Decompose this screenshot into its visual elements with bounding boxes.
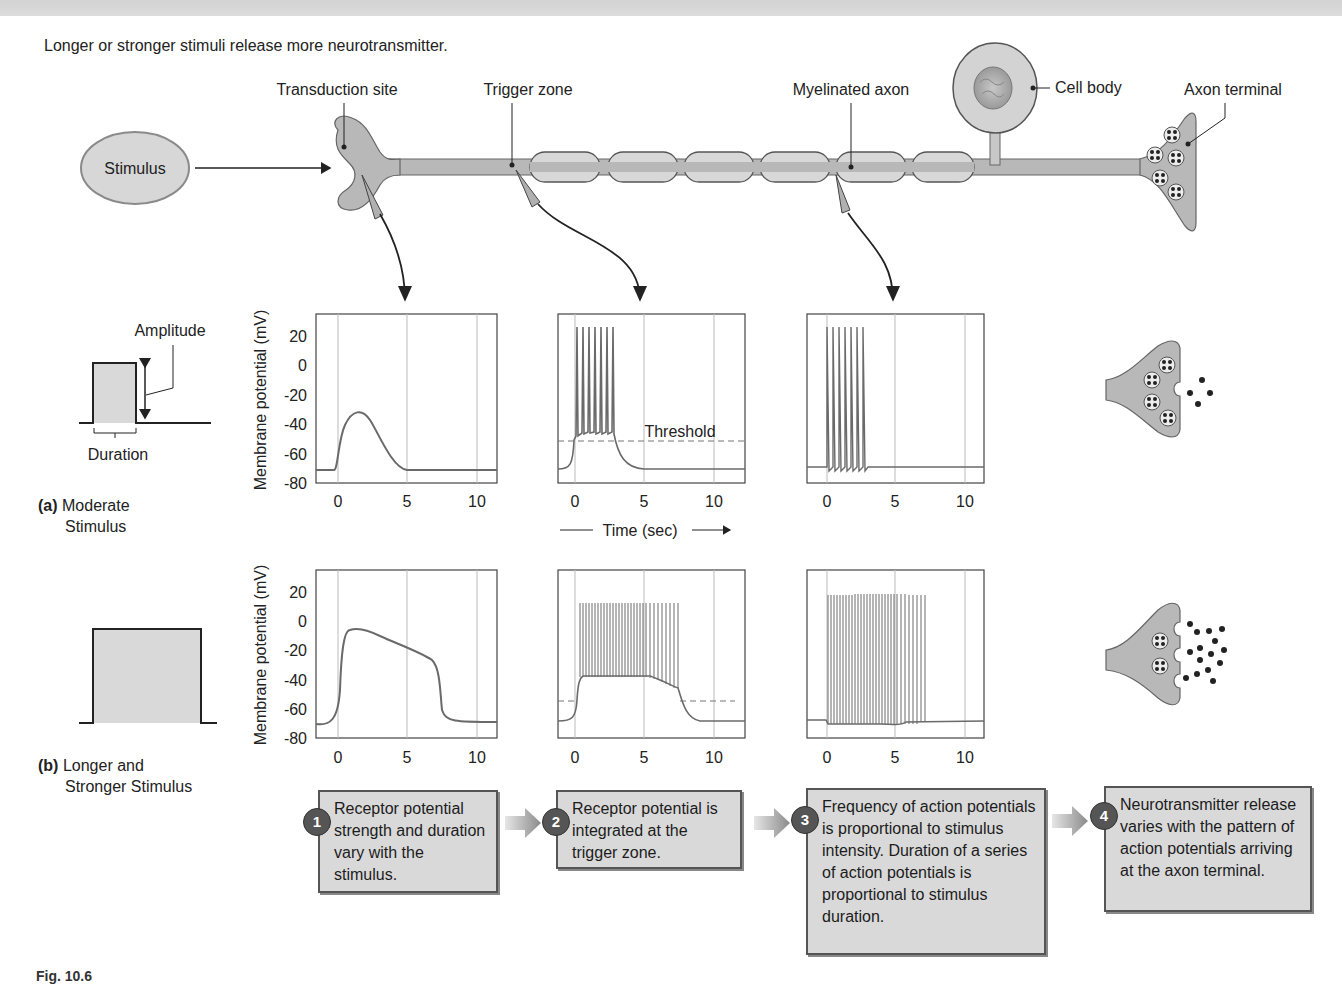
svg-text:10: 10	[705, 493, 723, 510]
step-arrow-2-3	[754, 808, 790, 838]
graph-a-trigger: Threshold	[558, 314, 745, 483]
panel-a-line1: Moderate	[62, 497, 130, 514]
y-axis-label-a: Membrane potential (mV)	[252, 310, 269, 491]
electrode-myelinated-axon	[836, 175, 893, 300]
graph-b-axon	[807, 570, 984, 738]
axon-terminal	[1140, 113, 1196, 231]
svg-text:10: 10	[956, 493, 974, 510]
svg-text:-80: -80	[284, 730, 307, 747]
terminal-release-b	[1106, 603, 1227, 705]
step-arrow-1-2	[505, 808, 541, 838]
svg-text:0: 0	[571, 749, 580, 766]
step-1-badge: 1	[303, 808, 331, 836]
step-2-badge: 2	[542, 808, 570, 836]
step-2-text: Receptor potential is integrated at the …	[572, 800, 718, 861]
y-axis-a: 20 0 -20 -40 -60 -80 Membrane potential …	[252, 310, 307, 492]
x-axis-b: 0 5 10 0 5 10 0 5 10	[334, 749, 974, 766]
svg-text:10: 10	[468, 749, 486, 766]
step-4-text: Neurotransmitter release varies with the…	[1120, 796, 1296, 879]
transduction-site-dot	[342, 145, 347, 150]
step-3-badge: 3	[791, 806, 819, 834]
svg-text:-60: -60	[284, 446, 307, 463]
axon-core	[530, 162, 974, 172]
step-arrow-3-4	[1052, 806, 1088, 836]
trigger-zone-dot	[510, 163, 515, 168]
svg-text:5: 5	[403, 493, 412, 510]
time-axis-label: Time (sec)	[560, 522, 730, 539]
svg-text:-40: -40	[284, 416, 307, 433]
svg-text:0: 0	[334, 749, 343, 766]
panel-b-letter: (b)	[38, 757, 58, 774]
svg-text:10: 10	[705, 749, 723, 766]
svg-text:0: 0	[334, 493, 343, 510]
svg-text:-80: -80	[284, 475, 307, 492]
amplitude-label: Amplitude	[134, 322, 205, 339]
trigger-zone-label: Trigger zone	[483, 81, 572, 98]
svg-text:5: 5	[640, 493, 649, 510]
axon-terminal-label: Axon terminal	[1184, 81, 1282, 98]
x-axis-a: 0 5 10 0 5 10 0 5 10	[334, 493, 974, 510]
y-axis-b: 20 0 -20 -40 -60 -80 Membrane potential …	[252, 565, 307, 747]
svg-text:0: 0	[571, 493, 580, 510]
stimulus-a-waveform	[79, 345, 211, 438]
svg-text:0: 0	[298, 613, 307, 630]
duration-label: Duration	[88, 446, 148, 463]
step-4-badge: 4	[1090, 802, 1118, 830]
transduction-site-label: Transduction site	[276, 81, 397, 98]
threshold-label: Threshold	[644, 423, 715, 440]
svg-text:-40: -40	[284, 672, 307, 689]
electrode-trigger-zone	[516, 170, 640, 300]
y-axis-label-b: Membrane potential (mV)	[252, 565, 269, 746]
svg-text:5: 5	[403, 749, 412, 766]
step-3-box: Frequency of action potentials is propor…	[806, 788, 1046, 955]
svg-text:-20: -20	[284, 387, 307, 404]
svg-text:0: 0	[298, 357, 307, 374]
stimulus-b-waveform	[79, 629, 217, 723]
panel-a-label: (a) Moderate Stimulus	[38, 495, 130, 537]
panel-a-letter: (a)	[38, 497, 58, 514]
stimulus-label: Stimulus	[104, 160, 165, 177]
svg-text:10: 10	[468, 493, 486, 510]
step-2-box: Receptor potential is integrated at the …	[556, 790, 742, 869]
axon-terminal-dot	[1186, 142, 1191, 147]
graph-b-receptor	[316, 570, 497, 738]
svg-text:-20: -20	[284, 642, 307, 659]
svg-text:20: 20	[289, 328, 307, 345]
figure-mark: Fig. 10.6	[36, 968, 92, 984]
panel-a-line2: Stimulus	[38, 518, 126, 535]
graph-b-trigger	[558, 570, 745, 738]
myelinated-axon-label: Myelinated axon	[793, 81, 910, 98]
svg-text:5: 5	[891, 749, 900, 766]
svg-text:10: 10	[956, 749, 974, 766]
stimulus-node: Stimulus	[81, 132, 189, 204]
panel-b-line1: Longer and	[63, 757, 144, 774]
svg-text:Time (sec): Time (sec)	[603, 522, 678, 539]
step-4-box: Neurotransmitter release varies with the…	[1104, 786, 1312, 912]
myelinated-axon-dot	[849, 165, 854, 170]
svg-text:-60: -60	[284, 701, 307, 718]
graph-a-axon	[807, 314, 984, 483]
graph-a-receptor	[316, 314, 497, 483]
transduction-site-shape	[335, 116, 400, 210]
panel-b-label: (b) Longer and Stronger Stimulus	[38, 755, 192, 797]
terminal-release-a	[1106, 341, 1213, 437]
electrode-transduction	[362, 175, 405, 300]
svg-text:0: 0	[823, 749, 832, 766]
cell-body-label: Cell body	[1055, 79, 1122, 96]
step-1-box: Receptor potential strength and duration…	[318, 790, 498, 893]
svg-text:5: 5	[891, 493, 900, 510]
svg-text:0: 0	[823, 493, 832, 510]
svg-text:5: 5	[640, 749, 649, 766]
panel-b-line2: Stronger Stimulus	[38, 778, 192, 795]
step-1-text: Receptor potential strength and duration…	[334, 800, 485, 883]
step-3-text: Frequency of action potentials is propor…	[822, 798, 1035, 925]
cell-body	[953, 43, 1037, 165]
svg-text:20: 20	[289, 584, 307, 601]
